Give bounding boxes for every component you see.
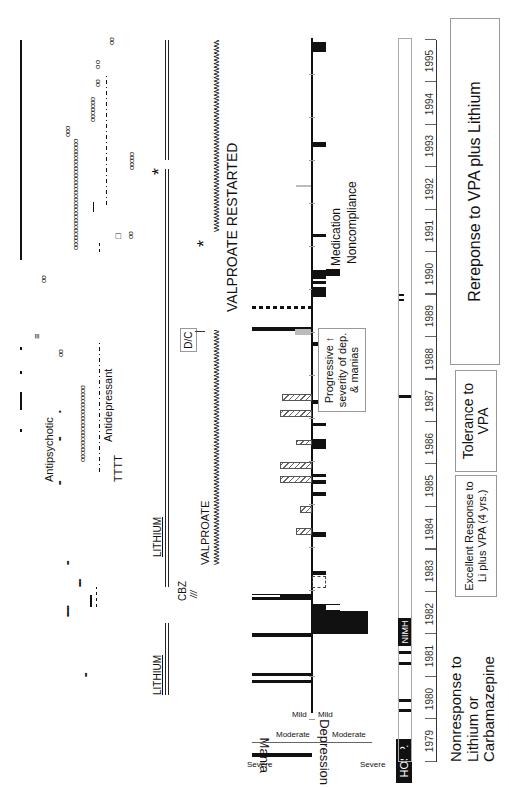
- antidepressant-dashdot: [99, 240, 100, 252]
- dose-circles: o o: [94, 61, 102, 69]
- nimh-label: NIMH: [400, 621, 410, 644]
- depression-episode: [312, 480, 326, 484]
- antipsychotic-dots: ••: [64, 561, 72, 565]
- progressive-annotation: Progressive ↑ severity of dep. & manias: [318, 328, 366, 412]
- phase-excellent-response: Excellent Response to Li plus VPA (4 yrs…: [455, 475, 497, 597]
- hypomania-episode: [280, 410, 312, 417]
- striped-mark: ≡: [33, 334, 42, 339]
- level-mania-moderate: Moderate: [276, 731, 310, 739]
- depression-episode: [312, 423, 326, 426]
- hypomania-episode: [296, 440, 312, 445]
- hypomania-episode: [280, 476, 312, 483]
- year-label: 1983: [424, 551, 435, 591]
- dose-circles: oo: [57, 350, 65, 357]
- dose-circles: ooooo: [128, 153, 136, 170]
- year-label: 1993: [424, 126, 435, 166]
- antidepressant-dashdot: [99, 340, 100, 472]
- valproate-restarted-label: VALPROATE RESTARTED: [225, 143, 239, 312]
- phase-excellent-response-text: Excellent Response to Li plus VPA (4 yrs…: [463, 480, 489, 592]
- year-label: 1994: [424, 84, 435, 124]
- depression-episode-line: [312, 604, 340, 605]
- cbz-label: CBZ: [178, 581, 188, 601]
- cbz-marks: ///: [190, 590, 199, 598]
- depression-episode: [312, 439, 326, 449]
- lithium-course-1: [165, 623, 169, 695]
- level-mania-severe: Severe: [247, 761, 272, 769]
- hosp-bar-dashed: [399, 294, 404, 296]
- hosp-bar: [399, 709, 411, 712]
- hypomania-episode: [300, 506, 312, 513]
- lithium-restart-star: *: [150, 168, 168, 175]
- depression-episode-severe: [312, 611, 368, 634]
- hosp-bar: [399, 651, 411, 654]
- year-label: 1982: [424, 594, 435, 634]
- dose-circles: oooooooooooooooooooooo: [79, 386, 87, 462]
- depression-episode: [312, 234, 326, 237]
- antidepressant-dashes: [90, 595, 92, 607]
- depression-episode: [312, 571, 326, 575]
- phase-rereponse-text: Rereponse to VPA plus Lithium: [466, 81, 484, 301]
- phase-tolerance-text: Tolerance to VPA: [461, 376, 492, 466]
- dose-circles: oo: [108, 38, 116, 45]
- antipsychotic-dots: ••••••: [64, 606, 72, 617]
- hosp-bar: [399, 699, 411, 702]
- lithium-course-3: [165, 40, 169, 160]
- depression-episode: [312, 474, 326, 477]
- hosp-bar: [399, 395, 411, 398]
- year-label: 1990: [424, 254, 435, 294]
- depression-episode: [312, 270, 326, 279]
- level-dep-severe: Severe: [360, 761, 385, 769]
- mania-episode: [252, 753, 312, 757]
- antidepressant-dashes: [96, 587, 97, 607]
- mania-episode: [252, 594, 312, 595]
- mania-episode: [252, 633, 312, 637]
- depression-axis-label: Depression: [318, 719, 331, 785]
- hypomania-episode: [296, 528, 312, 535]
- valproate-restart-star: *: [195, 240, 213, 247]
- lithium-label-1: LITHIUM: [153, 655, 163, 695]
- tttt-label: TTTT: [113, 455, 124, 482]
- dose-circles: oo: [94, 80, 102, 87]
- nimh-box: NIMH: [398, 618, 411, 646]
- mania-mild-episode: [295, 329, 311, 335]
- depression-episode: [312, 142, 326, 147]
- depression-episode: [312, 281, 326, 284]
- level-dep-mild: Mild: [318, 711, 333, 719]
- hosp-bar: [399, 662, 411, 665]
- year-label: 1980: [424, 679, 435, 719]
- valproate-course: vvvvvvvvvvvvvvvvvvvvvvvvvvvvvvvvvvvvvvvv…: [211, 330, 221, 565]
- noncompliance-note-line2: Noncompliance: [346, 181, 358, 264]
- mania-episode: [252, 673, 312, 676]
- year-label: 1987: [424, 381, 435, 421]
- antidepressant-dashdot: [93, 202, 94, 212]
- antipsychotic-label: Antipsychotic: [44, 417, 55, 482]
- noncompliance-note-line1: * Medication: [330, 208, 342, 274]
- top-row-line: [20, 40, 22, 260]
- antipsychotic-dots: ••••: [76, 580, 84, 587]
- mania-mild-episode: [296, 185, 311, 187]
- dose-circles: ooooooo: [89, 98, 97, 122]
- dose-circles: oooooooooooooooooooooooooooooooo: [72, 140, 80, 250]
- antipsychotic-dots: ••: [82, 673, 90, 677]
- dose-circles: oo: [40, 276, 48, 283]
- phase-tolerance: Tolerance to VPA: [455, 370, 497, 472]
- lithium-label-2: LITHIUM: [153, 517, 163, 557]
- year-label: 1985: [424, 466, 435, 506]
- antidepressant-label: Antidepressant: [103, 369, 114, 442]
- depression-episode: [312, 287, 326, 297]
- year-label: 1992: [424, 169, 435, 209]
- phase-rereponse: Rereponse to VPA plus Lithium: [450, 18, 500, 365]
- depression-episode: [312, 492, 326, 496]
- hypomania-episode: [280, 462, 312, 469]
- mania-episode: [252, 680, 312, 683]
- phase-nonresponse-text: Nonresponse to Lithium or Carbamazepine: [448, 612, 498, 762]
- hypomania-episode: [282, 394, 312, 401]
- top-row-marks: [20, 429, 22, 432]
- depression-episode: [312, 42, 326, 52]
- life-chart: Mania Depression Severe Moderate Mild Mi…: [0, 0, 509, 787]
- top-row-marks: [20, 392, 22, 410]
- level-mania-mild: Mild: [292, 711, 307, 719]
- antipsychotic-dots: ••: [56, 437, 64, 441]
- antidepressant-dashdot: [106, 75, 107, 205]
- dc-connector: [195, 331, 205, 332]
